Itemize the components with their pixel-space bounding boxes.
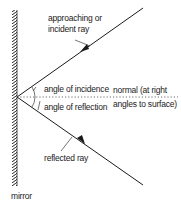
angle-of-reflection-label: angle of reflection <box>44 102 107 112</box>
incident-label-line2: incident ray <box>48 24 89 34</box>
incident-leader-line <box>75 40 90 46</box>
reflected-ray-label: reflected ray <box>44 153 88 163</box>
normal-label-line2: angles to surface) <box>113 99 177 109</box>
reflected-leader-line <box>61 137 72 151</box>
incident-label-line1: approaching or <box>48 13 102 23</box>
normal-label-line1: normal (at right <box>113 85 167 95</box>
reflection-angle-arc <box>32 97 35 107</box>
mirror-label: mirror <box>11 191 32 201</box>
mirror <box>12 10 17 186</box>
angle-of-incidence-label: angle of incidence <box>44 84 109 94</box>
